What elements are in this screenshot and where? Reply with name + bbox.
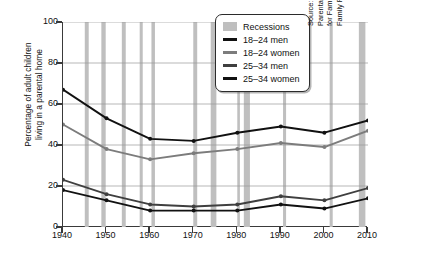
- legend-label: 18–24 women: [243, 48, 300, 58]
- legend-label: 25–34 men: [243, 61, 288, 71]
- y-tick-label: 100: [24, 16, 58, 26]
- line-swatch-icon: [223, 77, 237, 80]
- y-axis-title: Percentage of adult children living in a…: [23, 0, 44, 190]
- data-point: [192, 205, 196, 209]
- y-tick-label: 40: [24, 139, 58, 149]
- data-point: [322, 207, 326, 211]
- data-point: [322, 131, 326, 135]
- data-point: [192, 209, 196, 213]
- recession-band: [122, 22, 126, 227]
- data-point: [148, 157, 152, 161]
- recession-band: [359, 22, 366, 227]
- data-point: [322, 198, 326, 202]
- data-point: [279, 141, 283, 145]
- data-point: [235, 209, 239, 213]
- data-point: [148, 202, 152, 206]
- legend-item-18-24-women: 18–24 women: [223, 46, 300, 59]
- x-tick-mark: [366, 227, 367, 233]
- chart-figure: Percentage of adult children living in a…: [0, 0, 429, 258]
- data-point: [63, 188, 65, 192]
- legend-item-25-34-women: 25–34 women: [223, 72, 300, 85]
- x-tick-mark: [105, 227, 106, 233]
- data-point: [105, 147, 109, 151]
- legend-item-25-34-men: 25–34 men: [223, 59, 300, 72]
- data-point: [105, 192, 109, 196]
- y-tick-label: 60: [24, 98, 58, 108]
- legend-item-recessions: Recessions: [223, 20, 300, 33]
- data-point: [366, 196, 368, 200]
- data-point: [192, 151, 196, 155]
- y-tick-label: 20: [24, 180, 58, 190]
- data-point: [235, 202, 239, 206]
- data-point: [279, 202, 283, 206]
- data-point: [105, 198, 109, 202]
- data-point: [148, 137, 152, 141]
- y-tick-label: 80: [24, 57, 58, 67]
- data-point: [148, 209, 152, 213]
- legend-item-18-24-men: 18–24 men: [223, 33, 300, 46]
- source-citation: Source: Payne, Krista. “FP-12-22 Young A…: [306, 0, 368, 26]
- data-point: [192, 139, 196, 143]
- chart-legend: Recessions 18–24 men 18–24 women 25–34 m…: [215, 14, 310, 92]
- recession-band: [101, 22, 105, 227]
- line-swatch-icon: [223, 64, 237, 67]
- data-point: [322, 145, 326, 149]
- recession-band: [193, 22, 197, 227]
- legend-label: 25–34 women: [243, 74, 300, 84]
- data-point: [235, 131, 239, 135]
- data-point: [105, 116, 109, 120]
- x-tick-mark: [236, 227, 237, 233]
- x-tick-mark: [279, 227, 280, 233]
- legend-label: 18–24 men: [243, 35, 288, 45]
- x-tick-mark: [323, 227, 324, 233]
- x-tick-mark: [61, 227, 62, 233]
- x-tick-mark: [192, 227, 193, 233]
- legend-label: Recessions: [243, 22, 290, 32]
- recession-band: [140, 22, 143, 227]
- x-tick-mark: [148, 227, 149, 233]
- line-swatch-icon: [223, 38, 237, 41]
- recession-band: [330, 22, 333, 227]
- line-swatch-icon: [223, 51, 237, 54]
- data-point: [235, 147, 239, 151]
- recession-band: [151, 22, 154, 227]
- data-point: [279, 125, 283, 129]
- data-point: [279, 194, 283, 198]
- recession-swatch-icon: [223, 22, 237, 31]
